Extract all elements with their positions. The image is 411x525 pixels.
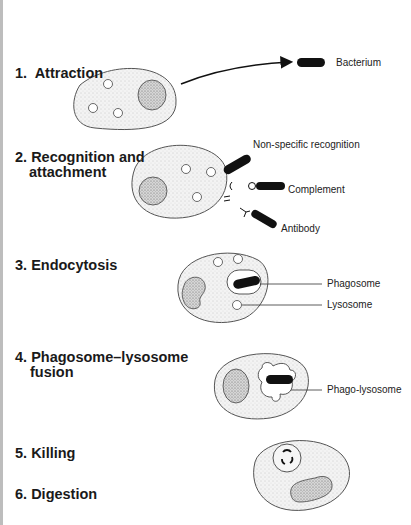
step-6-digestion: 6. Digestion <box>15 487 97 502</box>
step-number: 1. <box>15 65 27 81</box>
stage3-cell <box>178 253 268 322</box>
step-1-attraction: 1. Attraction <box>15 66 103 81</box>
complement-icon <box>249 183 256 190</box>
antibody-icon <box>240 208 250 217</box>
bacterium-icon <box>297 58 325 67</box>
stage4-cell <box>214 354 308 419</box>
step-title: Digestion <box>31 486 97 502</box>
label-phago-lysosome: Phago-lysosome <box>327 384 401 395</box>
label-lysosome: Lysosome <box>327 299 372 310</box>
bacterium-antibody-icon <box>250 209 278 230</box>
label-nonspecific-recognition: Non-specific recognition <box>253 139 360 150</box>
step-title: Attraction <box>35 65 103 81</box>
step-title: Phagosome–lysosome <box>31 349 188 365</box>
step-number: 5. <box>15 445 27 461</box>
label-bacterium: Bacterium <box>336 57 381 68</box>
step-title-line2: fusion <box>15 364 74 380</box>
stage56-cell <box>254 441 350 511</box>
step-2-recognition: 2. Recognition andattachment <box>15 150 145 180</box>
step-3-endocytosis: 3. Endocytosis <box>15 258 117 273</box>
chemotaxis-arrow <box>181 62 290 84</box>
step-title: Recognition and <box>31 149 145 165</box>
label-complement: Complement <box>288 184 345 195</box>
step-number: 6. <box>15 486 27 502</box>
step-title: Endocytosis <box>31 257 117 273</box>
step-number: 2. <box>15 149 27 165</box>
bacterium-nonspecific-icon <box>222 153 252 176</box>
label-phagosome: Phagosome <box>327 278 380 289</box>
step-5-killing: 5. Killing <box>15 446 75 461</box>
step-4-fusion: 4. Phagosome–lysosomefusion <box>15 350 188 380</box>
label-antibody: Antibody <box>281 223 320 234</box>
bacterium-complement-icon <box>256 182 285 190</box>
step-title-line2: attachment <box>15 164 106 180</box>
step-number: 3. <box>15 257 27 273</box>
stage2-cell <box>132 145 232 218</box>
step-title: Killing <box>31 445 75 461</box>
step-number: 4. <box>15 349 27 365</box>
